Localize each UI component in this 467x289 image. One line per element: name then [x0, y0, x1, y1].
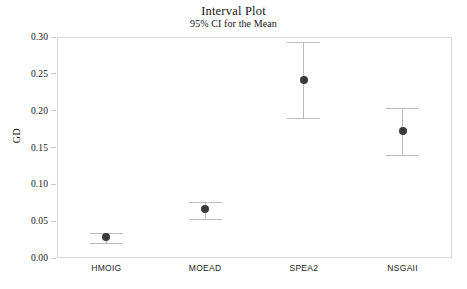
plot-area: [57, 37, 452, 258]
y-axis-tick-mark: [51, 110, 56, 111]
y-axis-tick-label: 0.20: [31, 105, 48, 117]
y-axis-tick-label: 0.10: [31, 178, 48, 190]
ci-lower-cap: [386, 155, 419, 156]
y-axis-tick: 0.25: [0, 68, 57, 80]
y-axis-tick-mark: [51, 258, 56, 259]
y-axis-tick: 0.15: [0, 142, 57, 154]
y-axis-tick-mark: [51, 37, 56, 38]
mean-marker: [399, 127, 407, 135]
y-axis-tick: 0.00: [0, 252, 57, 264]
y-axis-tick: 0.05: [0, 215, 57, 227]
y-axis-tick-label: 0.05: [31, 215, 48, 227]
y-axis-tick-label: 0.00: [31, 252, 48, 264]
ci-upper-cap: [287, 42, 320, 43]
y-axis-tick-label: 0.30: [31, 31, 48, 43]
ci-lower-cap: [189, 219, 222, 220]
ci-upper-cap: [386, 108, 419, 109]
x-axis-tick-label-nsgaii: NSGAII: [348, 263, 458, 273]
page-title: Interval Plot: [0, 4, 467, 18]
x-axis-tick-label-moead: MOEAD: [150, 263, 260, 273]
y-axis-tick: 0.10: [0, 178, 57, 190]
interval-plot-chart: Interval Plot 95% CI for the Mean GD 0.0…: [0, 0, 467, 289]
y-axis-tick-label: 0.25: [31, 68, 48, 80]
y-axis-tick: 0.30: [0, 31, 57, 43]
y-axis-tick-mark: [51, 221, 56, 222]
y-axis-tick-label: 0.15: [31, 142, 48, 154]
y-axis-tick-mark: [51, 73, 56, 74]
y-axis-tick-mark: [51, 147, 56, 148]
ci-lower-cap: [287, 118, 320, 119]
y-axis-tick: 0.20: [0, 105, 57, 117]
x-axis-tick-label-spea2: SPEA2: [249, 263, 359, 273]
ci-upper-cap: [189, 202, 222, 203]
y-axis-tick-mark: [51, 184, 56, 185]
x-axis-tick-label-hmoig: HMOIG: [51, 263, 161, 273]
chart-subtitle: 95% CI for the Mean: [0, 18, 467, 30]
ci-lower-cap: [90, 243, 123, 244]
chart-title-block: Interval Plot 95% CI for the Mean: [0, 4, 467, 30]
